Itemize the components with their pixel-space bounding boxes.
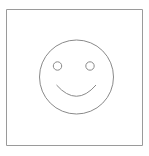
canvas-background bbox=[0, 0, 149, 156]
drawing-canvas bbox=[0, 0, 149, 156]
smiley-face-drawing bbox=[0, 0, 149, 156]
